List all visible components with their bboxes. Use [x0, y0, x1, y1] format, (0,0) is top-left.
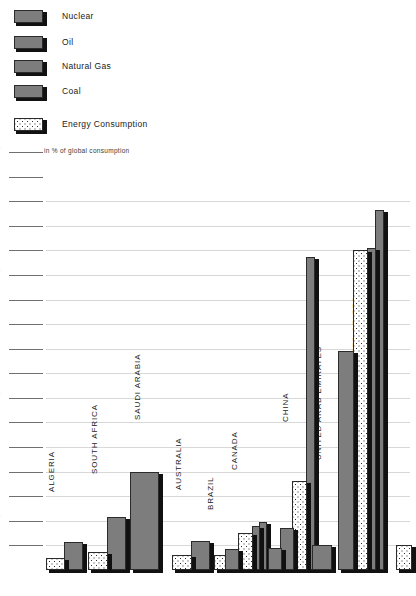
- bar-shadow-side: [159, 474, 163, 573]
- category-label: SAUDI ARABIA: [133, 354, 142, 420]
- bar-face: [130, 472, 159, 570]
- bar-shadow-side: [260, 528, 264, 573]
- bar-shadow-bottom: [175, 570, 195, 573]
- tick-rule: [9, 398, 43, 399]
- tick-rule: [9, 496, 43, 497]
- tick-rule: [9, 152, 43, 153]
- bar-face: [172, 555, 192, 570]
- bar-nuclear: [268, 548, 282, 570]
- bar-shadow-bottom: [133, 570, 162, 573]
- tick-rule: [9, 250, 43, 251]
- bar-shadow-bottom: [356, 570, 371, 573]
- bar-shadow-bottom: [91, 570, 111, 573]
- tick-rule: [9, 472, 43, 473]
- category-label: ALGERIA: [47, 451, 56, 492]
- bar-shadow-side: [83, 544, 87, 573]
- bar-face: [88, 552, 108, 570]
- tick-rule: [9, 226, 43, 227]
- bar-shadow-bottom: [49, 570, 68, 573]
- bar-face: [46, 558, 65, 570]
- bar-face: [396, 545, 412, 570]
- gridline: [46, 226, 410, 227]
- tick-rule: [9, 521, 43, 522]
- tick-rule: [9, 177, 43, 178]
- tick-rule: [9, 545, 43, 546]
- bar-energy-consumption: [46, 558, 65, 570]
- bar-shadow-side: [253, 535, 257, 573]
- tick-rule: [9, 275, 43, 276]
- tick-rule: [9, 324, 43, 325]
- bar-shadow-bottom: [67, 570, 86, 573]
- bar-shadow-bottom: [315, 570, 335, 573]
- bar-shadow-side: [307, 483, 311, 573]
- tick-rule: [9, 422, 43, 423]
- bar-energy-consumption: [172, 555, 192, 570]
- bar-shadow-bottom: [194, 570, 213, 573]
- bar-oil: [130, 472, 159, 570]
- bar-coal: [338, 351, 354, 570]
- bar-energy-consumption: [88, 552, 108, 570]
- tick-rule: [9, 201, 43, 202]
- tick-rule: [9, 373, 43, 374]
- bar-shadow-bottom: [241, 570, 256, 573]
- category-label: BRAZIL: [206, 477, 215, 510]
- bar-shadow-bottom: [341, 570, 357, 573]
- bar-energy-consumption: [396, 545, 412, 570]
- gridline: [46, 201, 410, 202]
- tick-rule: [9, 349, 43, 350]
- bar-face: [338, 351, 354, 570]
- tick-rule: [9, 447, 43, 448]
- x-axis-baseline: [46, 574, 410, 575]
- bar-face: [268, 548, 282, 570]
- bar-shadow-bottom: [271, 570, 285, 573]
- bar-shadow-bottom: [399, 570, 415, 573]
- category-label: CHINA: [281, 393, 290, 422]
- bar-shadow-side: [368, 252, 372, 573]
- bar-face: [225, 549, 239, 570]
- bar-shadow-side: [384, 212, 388, 573]
- category-label: AUSTRALIA: [174, 437, 183, 490]
- bar-shadow-side: [315, 259, 319, 574]
- bar-shadow-bottom: [110, 570, 129, 573]
- category-label: CANADA: [230, 431, 239, 470]
- category-label: SOUTH AFRICA: [90, 404, 99, 474]
- bar-shadow-side: [354, 353, 358, 573]
- bar-shadow-side: [294, 530, 298, 573]
- bar-shadow-side: [376, 250, 380, 573]
- bar-shadow-bottom: [228, 570, 242, 573]
- bar-nuclear: [225, 549, 239, 570]
- bar-oil: [312, 545, 332, 570]
- bar-face: [312, 545, 332, 570]
- tick-rule: [9, 300, 43, 301]
